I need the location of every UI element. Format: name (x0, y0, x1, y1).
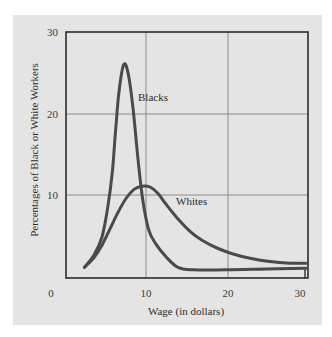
x-tick-20: 20 (223, 287, 235, 299)
y-tick-30: 30 (47, 26, 59, 38)
whites-series-label: Whites (176, 195, 207, 207)
blacks-series-label: Blacks (138, 91, 168, 103)
chart: 30 20 10 0 10 20 30 Wage (in dollars) Pe… (0, 0, 332, 337)
x-tick-30: 30 (295, 287, 307, 299)
y-tick-10: 10 (47, 189, 59, 201)
x-tick-10: 10 (141, 287, 153, 299)
x-axis-label: Wage (in dollars) (148, 305, 224, 318)
y-tick-20: 20 (47, 108, 59, 120)
y-axis-label: Percentages of Black or White Workers (28, 63, 40, 237)
origin-tick-0: 0 (48, 287, 54, 299)
